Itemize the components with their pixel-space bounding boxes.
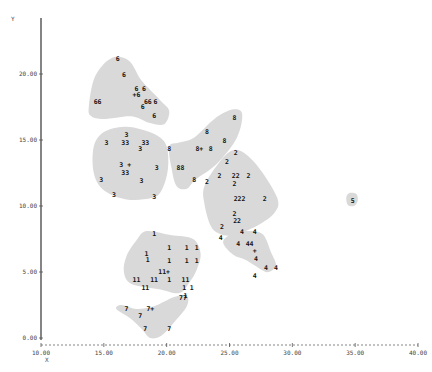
data-point-label: 2 [220,223,224,231]
data-point-label: 1 [146,256,150,264]
cluster-regions [89,57,358,339]
data-point-label: 1 [190,284,194,292]
data-point-label: 2 [217,172,221,180]
data-point-label: + [253,247,257,255]
data-point-label: 2 [263,195,267,203]
data-point-label: 3 [138,145,142,153]
data-point-label: 8 [209,145,213,153]
data-point-label: 11 [150,276,158,284]
data-point-label: 6 [153,98,157,106]
cluster-region-6 [89,57,170,125]
y-tick-label: 5.00 [23,268,38,275]
data-point-label: 7 [167,325,171,333]
data-point-label: +6 [133,91,141,99]
x-tick-label: 35.00 [346,349,364,356]
cluster-scatter-chart: 10.0015.0020.0025.0030.0035.0040.00 0.00… [0,0,432,372]
data-point-label: 3 + [119,161,131,169]
data-point-label: 1 [182,284,186,292]
x-tick-label: 40.00 [409,349,427,356]
data-point-label: 8+ [195,145,203,153]
data-point-label: 11 [141,284,149,292]
data-point-label: 88 [177,164,185,172]
data-point-label: 1 [185,244,189,252]
data-point-label: 66 [144,98,152,106]
data-point-label: 6 [142,85,146,93]
data-point-label: 4 [264,264,268,272]
data-point-label: 3 [99,176,103,184]
data-point-label: 8 [205,128,209,136]
data-point-label: 6 [122,71,126,79]
x-tick-label: 30.00 [283,349,301,356]
cluster-region-7 [116,295,188,338]
data-point-label: 3 [124,131,128,139]
data-point-label: 8 [167,145,171,153]
data-point-label: 66 [94,98,102,106]
data-point-label: 77 [179,294,187,302]
data-point-label: 1 [185,257,189,265]
data-point-label: 22 [232,172,240,180]
data-point-label: 33 [121,139,129,147]
data-point-label: 4 [219,234,223,242]
data-point-label: 3 [152,193,156,201]
data-point-label: 8 [223,137,227,145]
data-point-label: 1 [167,257,171,265]
data-point-label: 3 [112,191,116,199]
data-point-label: 7 [138,312,142,320]
y-tick-label: 0.00 [23,334,38,341]
x-axis-title: X [45,356,49,363]
data-point-label: 2 [233,180,237,188]
y-axis-title: Y [11,15,15,22]
data-point-label: 8 [233,114,237,122]
x-tick-label: 15.00 [95,349,113,356]
data-point-label: 4 [254,255,258,263]
data-point-label: 11 [133,276,141,284]
data-point-label: 6 [116,55,120,63]
data-point-label: 4 [253,228,257,236]
data-point-label: 7 [143,325,147,333]
data-point-label: 222 [234,195,246,203]
x-tick-label: 10.00 [32,349,50,356]
data-point-label: 4 [253,272,257,280]
data-point-label: 2 [246,172,250,180]
x-axis-ticks: 10.0015.0020.0025.0030.0035.0040.00 [32,343,427,356]
data-point-label: 4 [274,264,278,272]
data-point-label: 11 [182,276,190,284]
x-tick-label: 25.00 [220,349,238,356]
data-point-label: 7+ [146,305,154,313]
data-point-label: 1 [195,257,199,265]
data-point-label: 7 [124,305,128,313]
data-point-label: 11+ [158,268,170,276]
data-point-label: 33 [121,169,129,177]
data-point-label: 8 [192,176,196,184]
data-point-label: 6 [152,112,156,120]
data-point-label: 3 [104,139,108,147]
data-point-label: 2 [205,178,209,186]
data-point-label: 3 [140,177,144,185]
data-point-label: 1 [195,244,199,252]
data-point-label: 1 [152,230,156,238]
y-tick-label: 15.00 [19,136,37,143]
cluster-region-4 [223,231,276,272]
y-tick-label: 20.00 [19,70,37,77]
data-point-label: 5 [351,197,355,205]
data-point-label: 6 [141,103,145,111]
data-point-label: 2 [234,149,238,157]
data-point-label: 4 [240,228,244,236]
data-point-label: 3 [155,164,159,172]
data-point-label: 1 [167,276,171,284]
y-axis-ticks: 0.005.0010.0015.0020.00 [19,70,43,341]
data-point-label: 4 [236,240,240,248]
data-point-label: 1 [167,244,171,252]
x-tick-label: 20.00 [158,349,176,356]
data-point-label: 22 [233,217,241,225]
data-point-label: 33 [141,139,149,147]
data-point-label: 2 [225,158,229,166]
y-tick-label: 10.00 [19,202,37,209]
